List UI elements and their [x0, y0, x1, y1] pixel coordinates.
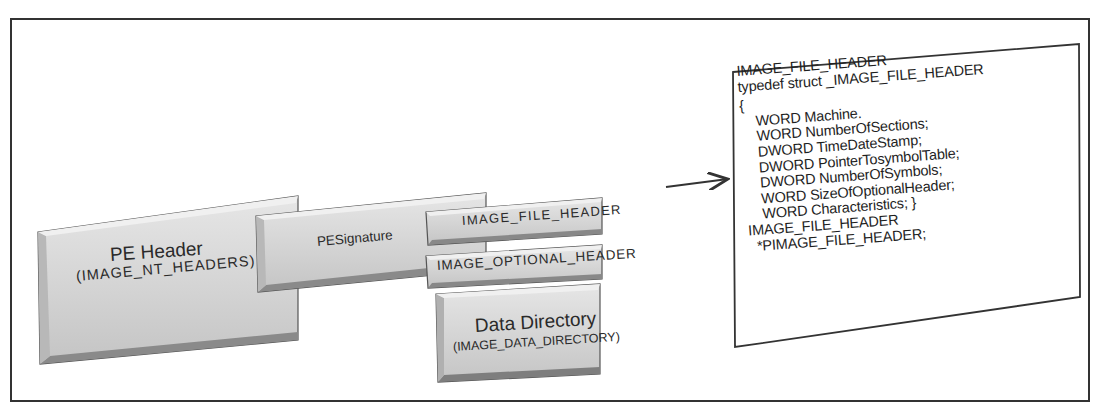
connector-arrow: [666, 179, 728, 187]
code-struct-text: IMAGE_FILE_HEADER typedef struct _IMAGE_…: [736, 46, 996, 255]
